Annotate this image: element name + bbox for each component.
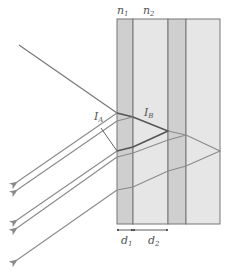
substrate-layer [186,19,220,224]
thin-film-interference-diagram: n1 n2 d1 d2 IA IB [0,0,228,271]
reflected-ray-c [17,190,117,260]
d1-label: d1 [121,234,133,248]
n2-layer [133,19,168,224]
reflected-ray-b1 [17,151,117,220]
IA-label: IA [93,110,103,124]
n1-label: n1 [117,4,129,18]
layer-stack [117,19,220,224]
d2-label: d2 [148,234,160,248]
incident-ray [19,45,117,113]
reflected-rays [17,113,117,260]
wavefront-line [101,128,117,151]
reflected-ray-a2 [17,121,117,190]
reflected-ray-b2 [17,157,117,228]
n1-layer-2 [168,19,186,224]
n2-label: n2 [143,4,155,18]
n1-layer [117,19,133,224]
